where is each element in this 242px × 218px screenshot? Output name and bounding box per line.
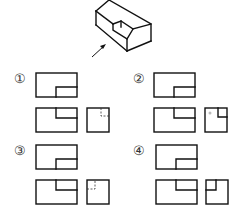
option-3-label: ③ — [14, 144, 26, 157]
option-1-side-view — [87, 108, 109, 132]
option-1-label: ① — [14, 72, 26, 85]
option-3-views — [36, 145, 109, 204]
option-2-views — [154, 73, 227, 132]
option-1-views — [36, 73, 109, 132]
option-2-label: ② — [133, 72, 145, 85]
option-3-side-view — [87, 180, 109, 204]
isometric-block — [96, 0, 151, 51]
option-4-side-view — [206, 180, 228, 204]
option-4-views — [156, 145, 228, 204]
view-direction-arrow — [92, 44, 106, 57]
diagram-canvas — [0, 0, 242, 218]
option-2-side-view — [205, 108, 227, 132]
option-4-label: ④ — [133, 144, 145, 157]
